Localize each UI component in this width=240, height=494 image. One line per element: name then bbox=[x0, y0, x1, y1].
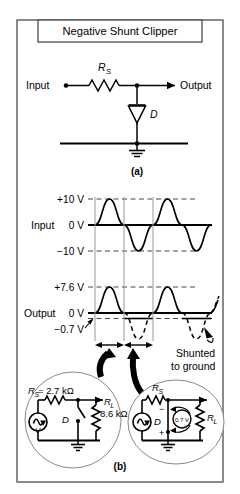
part-a-caption: (a) bbox=[131, 166, 143, 177]
diode-label: D bbox=[150, 108, 158, 120]
output-level-zero-label: 0 V bbox=[69, 308, 84, 319]
bubble-left-rl-value: 8.6 kΩ bbox=[100, 408, 128, 419]
input-row-label: Input bbox=[31, 219, 54, 231]
input-level-plus10-label: +10 V bbox=[57, 194, 84, 205]
bubble-right-diode-minus: − bbox=[159, 404, 164, 414]
shunted-annotation-line2: to ground bbox=[171, 360, 216, 372]
bubble-left-diode-label: D bbox=[62, 414, 69, 425]
figure-title: Negative Shunt Clipper bbox=[62, 25, 177, 37]
bubble-right-diode-label: D bbox=[154, 416, 161, 427]
bubble-right-07v-label: 0.7 V bbox=[175, 417, 189, 423]
negative-shunt-clipper-figure: Negative Shunt Clipper Input R S Output … bbox=[0, 0, 240, 494]
input-level-minus10-label: −10 V bbox=[57, 246, 84, 257]
rs-label: R bbox=[98, 61, 106, 73]
output-level-minus07-label: −0.7 V bbox=[54, 324, 84, 335]
rs-subscript: S bbox=[106, 67, 111, 76]
bubble-right-diode-plus: + bbox=[159, 428, 164, 438]
bubble-right-rl-subscript: L bbox=[214, 418, 218, 425]
bubble-left-rs-value: = 2.7 kΩ bbox=[38, 385, 74, 396]
bubble-right-node-bottom bbox=[166, 430, 170, 434]
input-level-zero-label: 0 V bbox=[69, 220, 84, 231]
part-b-caption: (b) bbox=[114, 461, 127, 472]
output-level-plus76-label: +7.6 V bbox=[54, 282, 84, 293]
bubble-right-circuit: R S D − + 0.7 V R L bbox=[128, 380, 224, 464]
schematic-input-label: Input bbox=[26, 79, 49, 91]
schematic-output-label: Output bbox=[180, 79, 212, 91]
output-row-label: Output bbox=[24, 307, 56, 319]
bubble-right-rs-subscript: S bbox=[159, 388, 164, 395]
shunted-annotation-line1: Shunted bbox=[176, 347, 215, 359]
